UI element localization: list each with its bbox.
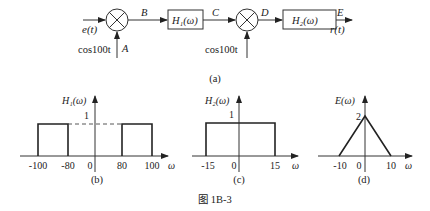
plot-e-xtick: 0 (357, 160, 362, 171)
plot-e-ylabel: E(ω) (334, 95, 355, 107)
plot-e-xtick: -10 (333, 160, 346, 171)
filter-h2-label: H₂(ω) (291, 15, 318, 27)
plot-e-ytick-2: 2 (356, 111, 361, 122)
node-a-label: A (121, 43, 129, 54)
plot-h1-band-negative (38, 124, 68, 156)
plot-h1-ytick-1: 1 (84, 110, 89, 121)
plot-e: E(ω) 2 -10 0 10 ω (d) (318, 95, 412, 186)
plot-h1-xtick: -80 (61, 160, 74, 171)
plot-e-xlabel: ω (405, 160, 412, 171)
plot-h2-xlabel: ω (292, 160, 299, 171)
node-e-label: E (336, 7, 344, 18)
plot-h2: H₂(ω) 1 -15 0 15 ω (c) (192, 95, 299, 186)
plot-h2-xtick: -15 (201, 160, 214, 171)
plot-h2-caption: (c) (233, 174, 245, 186)
plot-h2-ytick-1: 1 (229, 109, 234, 120)
block-diagram: e(t) cos100t A B H₁(ω) C cos100t D (78, 7, 352, 85)
figure-1b-3: e(t) cos100t A B H₁(ω) C cos100t D (0, 0, 430, 211)
multiplier-2-icon (236, 9, 258, 31)
plot-h1-caption: (b) (91, 174, 104, 186)
carrier-2-label: cos100t (205, 44, 238, 55)
carrier-1-label: cos100t (78, 44, 111, 55)
plot-h1-xlabel: ω (168, 160, 175, 171)
plot-h2-ylabel: H₂(ω) (204, 95, 230, 107)
node-c-label: C (212, 7, 220, 18)
plot-e-xtick: 10 (386, 160, 396, 171)
input-label: e(t) (82, 23, 98, 36)
plot-h2-passband (206, 123, 275, 156)
figure-caption: 图 1B-3 (198, 194, 232, 205)
plot-h1-band-positive (122, 124, 152, 156)
plot-h2-xtick: 15 (270, 160, 280, 171)
plot-h1-xtick: -100 (29, 160, 47, 171)
node-b-label: B (141, 7, 148, 18)
output-label: r(t) (330, 23, 345, 36)
filter-h1-label: H₁(ω) (171, 15, 198, 27)
plot-h2-xtick: 0 (232, 160, 237, 171)
plot-h1-ylabel: H₁(ω) (61, 95, 87, 107)
block-diagram-caption: (a) (209, 73, 221, 85)
plot-e-caption: (d) (358, 174, 371, 186)
plot-h1-xtick: 80 (117, 160, 127, 171)
node-d-label: D (260, 7, 269, 18)
plot-h1-xtick: 0 (88, 160, 93, 171)
plot-h1-xtick: 100 (145, 160, 160, 171)
multiplier-1-icon (106, 9, 128, 31)
plot-h1: H₁(ω) 1 -100 -80 0 80 100 ω (b) (20, 95, 175, 186)
